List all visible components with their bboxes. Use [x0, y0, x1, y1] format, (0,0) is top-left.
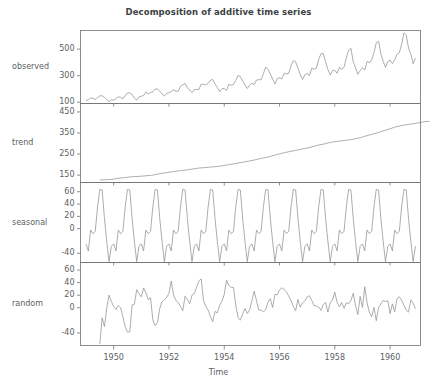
x-tick-label: 1952: [151, 353, 187, 362]
y-tick-label-random: 0: [69, 303, 74, 312]
series-line-seasonal: [86, 189, 415, 261]
decomposition-plot-figure: Decomposition of additive time series 10…: [0, 0, 437, 389]
panel-label-trend: trend: [12, 138, 33, 147]
x-tick-label: 1954: [206, 353, 242, 362]
y-tick-label-observed: 300: [59, 71, 74, 80]
y-tick-label-trend: 250: [59, 149, 74, 158]
y-tick-label-trend: 450: [59, 107, 74, 116]
x-axis-title: Time: [0, 368, 437, 377]
y-tick-label-seasonal: 40: [64, 199, 74, 208]
panel-frame-seasonal: [81, 183, 421, 263]
panel-label-seasonal: seasonal: [12, 218, 47, 227]
y-tick-label-observed: 100: [59, 97, 74, 106]
y-tick-label-trend: 150: [59, 170, 74, 179]
series-line-random: [100, 279, 416, 344]
x-tick-label: 1950: [96, 353, 132, 362]
y-tick-label-random: 40: [64, 278, 74, 287]
panel-frame-trend: [81, 104, 421, 183]
y-tick-label-seasonal: 0: [69, 224, 74, 233]
series-line-trend: [100, 121, 429, 180]
series-line-observed: [86, 33, 415, 102]
x-tick-label: 1956: [262, 353, 298, 362]
y-tick-label-seasonal: 20: [64, 211, 74, 220]
y-tick-label-seasonal: -40: [61, 248, 74, 257]
y-tick-label-random: -40: [61, 328, 74, 337]
y-tick-label-random: 60: [64, 265, 74, 274]
panel-label-observed: observed: [12, 62, 49, 71]
x-tick-label: 1960: [372, 353, 408, 362]
y-tick-label-observed: 500: [59, 44, 74, 53]
y-tick-label-trend: 350: [59, 128, 74, 137]
panel-frame-observed: [81, 31, 421, 104]
y-tick-label-random: 20: [64, 290, 74, 299]
panel-label-random: random: [12, 299, 43, 308]
panel-frame-random: [81, 263, 421, 346]
x-tick-label: 1958: [317, 353, 353, 362]
y-tick-label-seasonal: 60: [64, 187, 74, 196]
